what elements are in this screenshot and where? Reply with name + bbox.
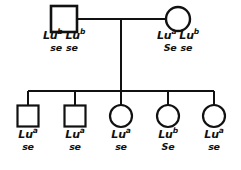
father-lutheran-genotype: LubLub xyxy=(16,30,112,42)
child-lutheran-genotype-1: Lua xyxy=(5,129,51,141)
child-square-symbol-2 xyxy=(65,106,86,127)
child-genotype-label-3: Lua se xyxy=(98,129,144,152)
allele: Lub xyxy=(179,30,199,42)
allele: Lub xyxy=(66,30,86,42)
allele: Lua xyxy=(204,128,223,141)
child-square-symbol-1 xyxy=(18,106,39,127)
secretor-allele: se xyxy=(208,141,220,152)
allele: Lua xyxy=(65,128,84,141)
father-secretor-genotype: sese xyxy=(16,43,112,53)
mother-secretor-genotype: Sese xyxy=(130,43,226,53)
child-genotype-label-5: Lua se xyxy=(191,129,237,152)
child-lutheran-genotype-5: Lua xyxy=(191,129,237,141)
child-circle-symbol-4 xyxy=(157,105,179,127)
child-lutheran-genotype-4: Lub xyxy=(145,129,191,141)
allele: Lub xyxy=(158,128,178,141)
allele: Lua xyxy=(18,128,37,141)
allele: Lua xyxy=(111,128,130,141)
secretor-allele: Se xyxy=(164,43,177,53)
secretor-allele: se xyxy=(66,43,78,53)
child-secretor-genotype-5: se xyxy=(191,142,237,152)
secretor-allele: Se xyxy=(162,141,175,152)
secretor-allele: se xyxy=(115,141,127,152)
allele: Lua xyxy=(157,30,176,42)
secretor-allele: se xyxy=(181,43,193,53)
child-secretor-genotype-1: se xyxy=(5,142,51,152)
secretor-allele: se xyxy=(50,43,62,53)
child-circle-symbol-5 xyxy=(203,105,225,127)
mother-genotype-label: LuaLub Sese xyxy=(130,30,226,53)
allele: Lub xyxy=(43,30,63,42)
child-genotype-label-2: Lua se xyxy=(52,129,98,152)
pedigree-diagram: LubLub sese LuaLub Sese Lua se Lua se xyxy=(0,0,241,170)
mother-lutheran-genotype: LuaLub xyxy=(130,30,226,42)
secretor-allele: se xyxy=(22,141,34,152)
child-secretor-genotype-4: Se xyxy=(145,142,191,152)
child-lutheran-genotype-3: Lua xyxy=(98,129,144,141)
secretor-allele: se xyxy=(69,141,81,152)
child-genotype-label-4: Lub Se xyxy=(145,129,191,152)
child-secretor-genotype-3: se xyxy=(98,142,144,152)
father-genotype-label: LubLub sese xyxy=(16,30,112,53)
mother-circle-symbol xyxy=(166,7,190,31)
child-secretor-genotype-2: se xyxy=(52,142,98,152)
child-circle-symbol-3 xyxy=(110,105,132,127)
child-genotype-label-1: Lua se xyxy=(5,129,51,152)
child-lutheran-genotype-2: Lua xyxy=(52,129,98,141)
